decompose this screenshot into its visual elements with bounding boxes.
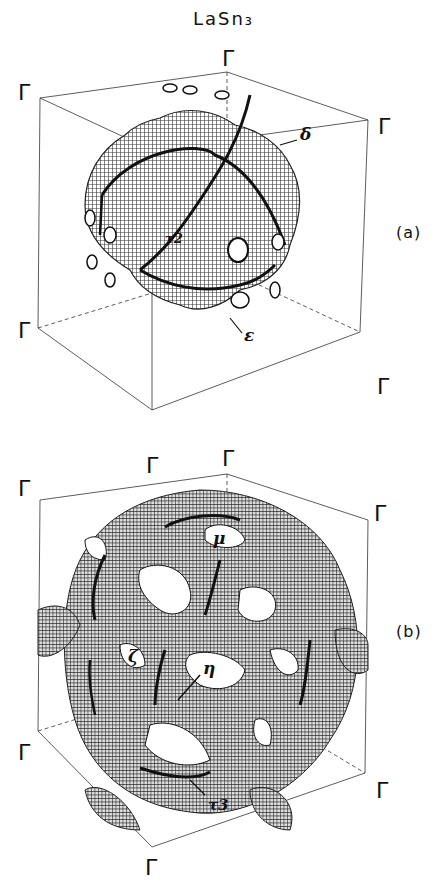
gamma-point-b-bottom: Γ: [145, 857, 157, 879]
gamma-point-b-bottom-left: Γ: [18, 742, 30, 764]
gamma-point-b-top-left-inner: Γ: [146, 455, 158, 477]
orbit-label-delta: δ: [300, 126, 311, 143]
gamma-point-a-bottom-right: Γ: [377, 376, 389, 398]
gamma-point-b-top-right: Γ: [374, 503, 386, 525]
gamma-point-b-top-left: Γ: [18, 478, 30, 500]
orbit-label-tau2: τ2: [165, 232, 183, 245]
panel-b-label: (b): [396, 622, 422, 641]
orbit-label-eta: η: [203, 660, 215, 677]
gamma-point-a-top: Γ: [222, 48, 234, 70]
orbit-label-mu: μ: [213, 530, 225, 547]
gamma-point-a-bottom-left: Γ: [18, 320, 30, 342]
orbit-label-tau3: τ3: [208, 798, 229, 813]
gamma-point-b-top: Γ: [222, 448, 234, 470]
orbit-label-epsilon: ε: [244, 327, 254, 344]
panel-a-label: (a): [396, 223, 421, 242]
gamma-point-a-top-left: Γ: [18, 82, 30, 104]
gamma-point-b-bottom-right: Γ: [376, 780, 388, 802]
orbit-label-zeta: ζ: [128, 648, 138, 665]
gamma-point-a-top-right: Γ: [378, 116, 390, 138]
panel-a-fermi-surface: [85, 84, 299, 333]
